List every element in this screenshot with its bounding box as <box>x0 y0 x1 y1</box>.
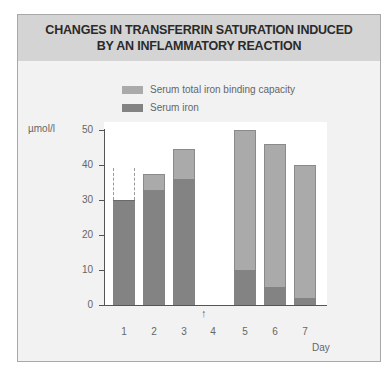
x-tick-label: 3 <box>174 326 194 337</box>
y-tick-label: 30 <box>73 194 93 205</box>
x-tick-label: 6 <box>265 326 285 337</box>
bar-day1-iron <box>113 200 135 305</box>
bar-day1-tibc-dashed <box>113 168 135 200</box>
bar-day7-tibc <box>294 165 316 298</box>
x-axis-unit: Day <box>312 342 330 353</box>
bar-day6-tibc <box>264 144 286 287</box>
bar-day5-iron <box>234 270 256 305</box>
y-tick-label: 20 <box>73 229 93 240</box>
y-tick-label: 40 <box>73 159 93 170</box>
legend-item-iron: Serum iron <box>122 102 199 113</box>
legend-swatch-iron <box>122 104 143 112</box>
y-axis-unit: µmol/l <box>28 123 55 134</box>
chart-panel: CHANGES IN TRANSFERRIN SATURATION INDUCE… <box>17 14 381 362</box>
x-tick-label: 7 <box>295 326 315 337</box>
event-arrow-icon: ↑ <box>201 307 207 319</box>
y-tick-label: 50 <box>73 124 93 135</box>
y-tick-label: 10 <box>73 264 93 275</box>
title-line-1: CHANGES IN TRANSFERRIN SATURATION INDUCE… <box>18 22 380 38</box>
legend-label-iron: Serum iron <box>150 102 199 113</box>
bar-day5-tibc <box>234 130 256 270</box>
bar-day6-iron <box>264 287 286 305</box>
bar-day7-iron <box>294 298 316 305</box>
x-tick-label: 2 <box>144 326 164 337</box>
bar-day2-tibc <box>143 174 165 190</box>
legend-label-tibc: Serum total iron binding capacity <box>150 84 295 95</box>
bar-day2-iron <box>143 190 165 305</box>
legend-swatch-tibc <box>122 86 143 94</box>
bar-day3-tibc <box>173 149 195 179</box>
y-axis <box>104 129 105 306</box>
y-tick-label: 0 <box>73 299 93 310</box>
legend-item-tibc: Serum total iron binding capacity <box>122 84 295 95</box>
x-tick-label: 1 <box>114 326 134 337</box>
bar-day3-iron <box>173 179 195 305</box>
x-axis <box>104 305 327 306</box>
x-tick-label: 5 <box>235 326 255 337</box>
chart-title: CHANGES IN TRANSFERRIN SATURATION INDUCE… <box>18 22 380 54</box>
chart-header: CHANGES IN TRANSFERRIN SATURATION INDUCE… <box>18 15 380 61</box>
title-line-2: BY AN INFLAMMATORY REACTION <box>18 38 380 54</box>
x-tick-label: 4 <box>203 326 223 337</box>
